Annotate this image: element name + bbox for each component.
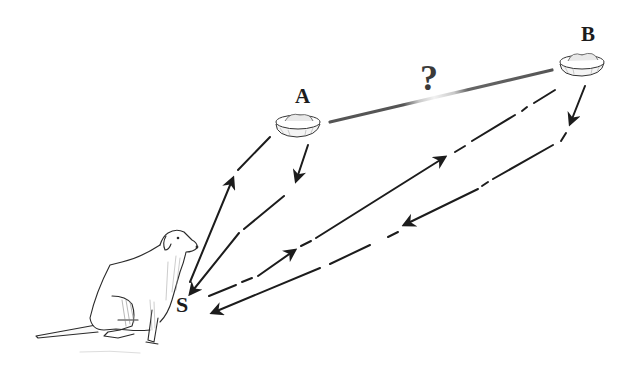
path-s-to-a (190, 137, 270, 282)
path-b-to-s (212, 86, 585, 313)
dog-illustration (36, 230, 198, 353)
path-s-to-b (209, 90, 555, 296)
location-label-a: A (295, 86, 310, 107)
navigation-diagram (0, 0, 629, 372)
food-bowl-b-icon (560, 53, 604, 76)
question-mark-label: ? (420, 60, 438, 96)
path-a-to-s (190, 145, 308, 294)
shortcut-path-a-to-b (330, 70, 552, 122)
food-bowl-a-icon (276, 114, 320, 137)
location-label-b: B (581, 24, 595, 45)
start-label-s: S (176, 294, 188, 316)
